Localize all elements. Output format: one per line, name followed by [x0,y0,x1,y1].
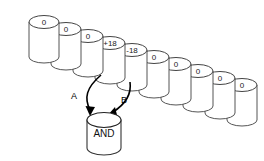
cylinder-node[interactable]: 0 [29,16,59,64]
cylinder-value: +18 [103,39,117,48]
edge-b-label: B [121,95,127,105]
diagram-canvas: 0 0 0 0 [0,0,264,161]
cylinder-value: 0 [240,81,245,90]
and-node[interactable]: AND [87,113,121,156]
cylinder-value: -18 [126,46,138,55]
cylinder-value: 0 [152,53,157,62]
cylinder-value: 0 [218,74,223,83]
edge-a-label: A [71,91,77,101]
cylinder-value: 0 [86,32,91,41]
cylinder-row: 0 0 0 0 [29,16,257,127]
and-node-label: AND [93,128,114,139]
cylinder-value: 0 [42,18,47,27]
cylinder-value: 0 [174,60,179,69]
cylinder-diagram: 0 0 0 0 [0,0,264,161]
and-node-top [87,113,121,128]
cylinder-value: 0 [196,67,201,76]
cylinder-value: 0 [64,25,69,34]
